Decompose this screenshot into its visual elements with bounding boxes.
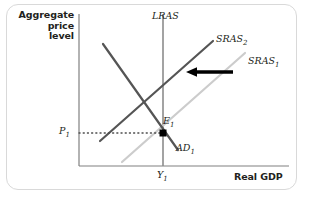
- p1-tick-sub: 1: [65, 131, 69, 139]
- p1-tick-label: P1: [59, 126, 70, 140]
- equilibrium-label: E1: [163, 116, 174, 130]
- equilibrium-label-sub: 1: [170, 121, 174, 129]
- sras2-label-sub: 2: [243, 39, 247, 47]
- sras2-label-text: SRAS: [216, 33, 243, 44]
- figure-container: Aggregate price level Real GDP LRAS SRAS…: [0, 0, 309, 203]
- sras1-label: SRAS1: [248, 56, 280, 70]
- sras1-label-sub: 1: [275, 61, 279, 69]
- x-axis-title: Real GDP: [234, 172, 283, 183]
- lras-label: LRAS: [152, 11, 179, 22]
- ad1-label-sub: 1: [190, 148, 194, 156]
- ad1-label: AD1: [176, 143, 195, 157]
- equilibrium-label-text: E: [163, 115, 170, 126]
- y-axis-title: Aggregate price level: [16, 10, 74, 42]
- y1-tick-sub: 1: [163, 175, 167, 183]
- sras2-curve: [100, 41, 213, 141]
- ad1-label-text: AD: [176, 142, 190, 153]
- equilibrium-marker-e1: [160, 130, 167, 137]
- lras-label-text: LRAS: [152, 10, 179, 21]
- ad1-curve: [103, 44, 178, 150]
- y-axis-title-line-3: level: [16, 31, 74, 42]
- y1-tick-label: Y1: [157, 170, 168, 184]
- sras1-label-text: SRAS: [248, 55, 275, 66]
- sras2-label: SRAS2: [216, 34, 248, 48]
